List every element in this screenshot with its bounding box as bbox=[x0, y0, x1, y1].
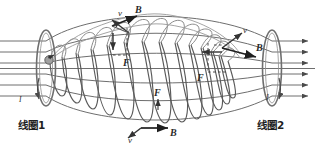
label-field-bottom: B bbox=[170, 128, 177, 138]
label-coil-left-name: 线圈1 bbox=[18, 120, 45, 131]
label-field-top-left: B bbox=[135, 5, 142, 15]
vector-pair-bottom bbox=[128, 128, 168, 138]
label-force-top-left: F bbox=[123, 58, 130, 68]
label-coil-right-name: 线圈2 bbox=[257, 120, 284, 131]
label-velocity-top-left: v bbox=[118, 9, 122, 18]
label-current-left-coil: I bbox=[19, 96, 22, 104]
label-force-right: F bbox=[197, 73, 204, 83]
label-force-center: F bbox=[154, 88, 161, 98]
label-field-right: B bbox=[256, 43, 263, 53]
label-velocity-right: v bbox=[243, 26, 247, 35]
label-velocity-bottom: v bbox=[128, 136, 132, 145]
label-current-right-coil: I bbox=[266, 94, 269, 102]
figure-canvas: v B F v B F F v B I I 线圈1 线圈2 bbox=[0, 0, 315, 151]
